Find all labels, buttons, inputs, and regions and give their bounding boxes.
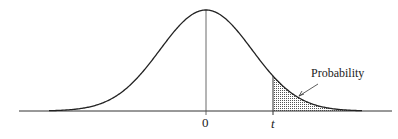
probability-label: Probability [311, 67, 364, 79]
density-curve [49, 10, 362, 111]
t-label: t [271, 117, 275, 130]
probability-shaded-region [273, 76, 352, 111]
t-distribution-figure: 0 t Probability [0, 0, 398, 139]
zero-label: 0 [202, 116, 209, 129]
arrow-icon [299, 84, 318, 96]
